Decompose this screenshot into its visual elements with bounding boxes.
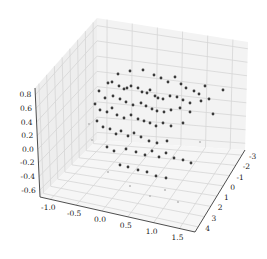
data-point [182,159,185,162]
data-point [160,77,163,80]
data-point [190,162,193,165]
data-point [130,114,133,117]
data-point [119,98,122,101]
z-tick-label: 0.4 [21,118,33,127]
data-point [123,88,126,91]
x-tick-label: 1.0 [146,227,158,236]
y-tick-label: 3 [211,214,216,223]
data-point [88,123,90,125]
data-point [127,166,130,169]
data-point [182,99,185,102]
data-point [126,87,129,90]
data-point [204,85,207,88]
data-point [129,185,131,187]
data-point [140,102,143,105]
y-tick-label: -3 [249,152,257,161]
x-tick-label: -1.0 [41,203,56,212]
data-point [96,120,99,123]
data-point [198,93,201,96]
data-point [185,87,188,90]
data-point [199,141,201,143]
data-point [137,169,140,172]
z-tick-label: 0.2 [21,131,33,140]
data-point [91,139,93,141]
y-tick-label: -2 [243,162,251,171]
data-point [153,74,156,77]
z-tick-label: -0.2 [20,158,35,167]
data-point [165,177,168,180]
data-point [151,150,154,153]
z-tick-label: 0.8 [19,90,31,99]
data-point [116,114,119,117]
data-point [107,171,109,173]
data-point [180,83,183,86]
z-tick-label: -0.4 [21,172,36,181]
data-point [162,98,165,101]
data-point [155,125,158,128]
data-point [109,128,112,131]
data-point [146,92,149,95]
data-point [164,189,166,191]
data-point [151,108,154,111]
data-point [132,104,135,107]
data-point [154,95,157,98]
data-point [173,157,176,160]
data-point [137,118,140,121]
data-point [158,156,161,159]
data-point [177,201,179,203]
x-tick-label: 1.5 [172,233,184,242]
data-point [111,107,114,110]
data-point [170,125,173,128]
x-tick-label: 0.0 [94,215,106,224]
data-point [112,95,115,98]
data-point [143,120,146,123]
data-point [169,95,172,98]
data-point [155,175,158,178]
data-point [149,89,152,92]
data-point [118,85,121,88]
data-point [113,150,116,153]
data-point [170,109,173,112]
z-tick-label: 0.6 [20,104,32,113]
data-point [104,97,107,100]
data-point [141,91,144,94]
data-point [156,142,159,145]
data-point [179,107,182,110]
z-tick-label: 0.0 [22,145,34,154]
data-point [129,70,132,73]
data-point [145,105,148,108]
data-point [149,195,151,197]
data-point [106,111,109,114]
data-point [167,81,170,84]
data-point [99,109,102,112]
data-point [149,122,152,125]
data-point [94,103,97,106]
data-point [148,140,151,143]
data-point [189,111,192,114]
data-point [119,164,122,167]
data-point [133,132,136,135]
y-tick-label: 0 [230,183,235,192]
y-tick-label: 1 [224,193,229,202]
data-point [98,90,101,93]
data-point [144,154,147,157]
data-point [200,100,203,103]
data-point [142,69,145,72]
data-point [162,122,165,125]
data-point [176,96,179,99]
y-tick-label: -1 [236,173,243,182]
data-point [174,76,177,79]
data-point [115,133,118,136]
data-point [120,130,123,133]
x-tick-label: 0.5 [120,221,132,230]
data-point [182,122,185,125]
data-point [117,73,120,76]
y-tick-label: 2 [218,203,223,212]
x-tick-label: -0.5 [67,209,82,218]
data-point [127,135,130,138]
data-point [125,148,128,151]
data-point [106,146,109,149]
data-point [208,98,211,101]
data-point [146,171,149,174]
data-point [137,87,140,90]
